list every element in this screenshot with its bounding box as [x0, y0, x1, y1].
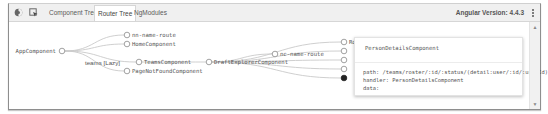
tree-node-label[interactable]: HomeComponent: [132, 41, 176, 48]
tree-node-label[interactable]: nn-name-route: [132, 32, 176, 39]
tree-node-app[interactable]: [59, 48, 65, 54]
tree-node-label[interactable]: AppComponent: [16, 48, 56, 55]
scroll-down-arrow-icon[interactable]: ▼: [530, 100, 540, 108]
node-details-tooltip: PersonDetailsComponent path: /teams/rost…: [354, 37, 523, 96]
tree-node-c5[interactable]: [341, 75, 347, 81]
tooltip-title: PersonDetailsComponent: [365, 45, 439, 51]
tooltip-path: path: /teams/roster/:id/:status/(detail:…: [363, 69, 548, 76]
kebab-menu-icon[interactable]: [530, 6, 536, 20]
tree-node-label[interactable]: PageNotFoundComponent: [132, 68, 203, 75]
tab-ngmodules[interactable]: NgModules: [131, 6, 170, 20]
tooltip-divider: [355, 62, 522, 63]
tree-node-home[interactable]: [124, 41, 130, 47]
tree-node-label[interactable]: DraftExplorerComponent: [214, 59, 288, 66]
tree-node-label[interactable]: TeamsComponent: [144, 59, 191, 66]
tree-node-teams[interactable]: [136, 59, 142, 65]
tree-node-nn2[interactable]: [272, 51, 278, 57]
tree-node-draft[interactable]: [206, 59, 212, 65]
inspect-icon[interactable]: [28, 7, 39, 18]
select-element-icon[interactable]: [13, 7, 24, 18]
tree-node-pnf[interactable]: [124, 68, 130, 74]
tree-node-c3[interactable]: [341, 57, 347, 63]
scroll-up-arrow-icon[interactable]: ▲: [530, 23, 540, 31]
tree-node-c4[interactable]: [341, 66, 347, 72]
tree-node-nn1[interactable]: [124, 32, 130, 38]
angular-version-label: Angular Version: 4.4.3: [456, 6, 524, 20]
tree-edge: [65, 35, 124, 51]
toolbar: Component Tree Router Tree NgModules Ang…: [9, 4, 540, 22]
vertical-scrollbar[interactable]: ▲ ▼: [529, 22, 540, 109]
tooltip-handler: handler: PersonDetailsComponent: [363, 77, 464, 84]
tree-edge: [65, 44, 124, 51]
devtools-panel: Component Tree Router Tree NgModules Ang…: [8, 3, 541, 110]
tree-node-c2[interactable]: [341, 48, 347, 54]
tree-node-label[interactable]: teams [Lazy]: [85, 59, 120, 66]
tab-component-tree[interactable]: Component Tree: [46, 6, 100, 20]
router-tree-canvas: AppComponentteams [Lazy]nn-name-routeHom…: [9, 22, 529, 109]
tree-node-c1[interactable]: [341, 39, 347, 45]
tree-node-label[interactable]: nc-name-route: [280, 51, 324, 58]
tooltip-data: data:: [363, 85, 379, 92]
tab-router-tree[interactable]: Router Tree: [94, 5, 136, 21]
